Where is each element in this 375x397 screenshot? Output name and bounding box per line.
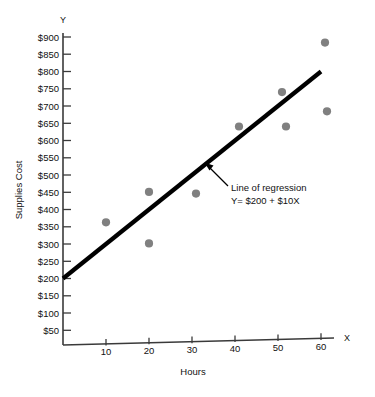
- data-point: [145, 239, 153, 247]
- data-point: [282, 122, 290, 130]
- y-tick-label: $300: [38, 239, 59, 250]
- regression-annotation-line2: Y= $200 + $10X: [231, 195, 300, 206]
- x-tick-label: 30: [187, 344, 198, 355]
- data-point: [192, 190, 200, 198]
- x-tick-label: 40: [230, 343, 241, 354]
- x-tick-label: 10: [101, 346, 112, 357]
- data-point: [235, 122, 243, 130]
- regression-annotation-line1: Line of regression: [231, 182, 307, 193]
- y-axis-title: Supplies Cost: [13, 160, 24, 219]
- y-axis-ticks: [63, 37, 71, 330]
- y-tick-label: $500: [38, 170, 59, 181]
- y-tick-label: $450: [38, 187, 59, 198]
- y-tick-label: $700: [38, 101, 59, 112]
- annotation-arrow-icon: [205, 163, 229, 187]
- x-tick-label: 50: [273, 342, 284, 353]
- y-tick-label: $600: [38, 135, 59, 146]
- data-point: [323, 107, 331, 115]
- data-point: [278, 88, 286, 96]
- x-tick-label: 60: [316, 341, 327, 352]
- chart-canvas: $900 $850 $800 $750 $700 $650 $600 $550 …: [0, 0, 375, 397]
- y-tick-label: $350: [38, 221, 59, 232]
- y-axis-tick-labels: $900 $850 $800 $750 $700 $650 $600 $550 …: [38, 32, 59, 336]
- y-tick-label: $650: [38, 118, 59, 129]
- y-tick-label: $400: [38, 204, 59, 215]
- y-tick-label: $800: [38, 66, 59, 77]
- x-tick-label: 20: [144, 345, 155, 356]
- data-point: [321, 39, 329, 47]
- regression-line: [63, 72, 321, 279]
- y-tick-label: $250: [38, 256, 59, 267]
- y-tick-label: $550: [38, 152, 59, 163]
- y-tick-label: $50: [43, 325, 59, 336]
- x-axis-marker: X: [344, 333, 350, 343]
- y-tick-label: $850: [38, 49, 59, 60]
- data-point: [145, 188, 153, 196]
- y-tick-label: $150: [38, 290, 59, 301]
- y-tick-label: $100: [38, 308, 59, 319]
- x-axis-title: Hours: [180, 366, 206, 377]
- y-tick-label: $200: [38, 273, 59, 284]
- y-tick-label: $750: [38, 83, 59, 94]
- data-point: [102, 218, 110, 226]
- x-axis-line: [63, 338, 334, 345]
- y-tick-label: $900: [38, 32, 59, 43]
- scatter-points: [102, 39, 331, 248]
- y-axis-marker: Y: [60, 15, 66, 25]
- regression-scatter-chart: $900 $850 $800 $750 $700 $650 $600 $550 …: [0, 0, 375, 397]
